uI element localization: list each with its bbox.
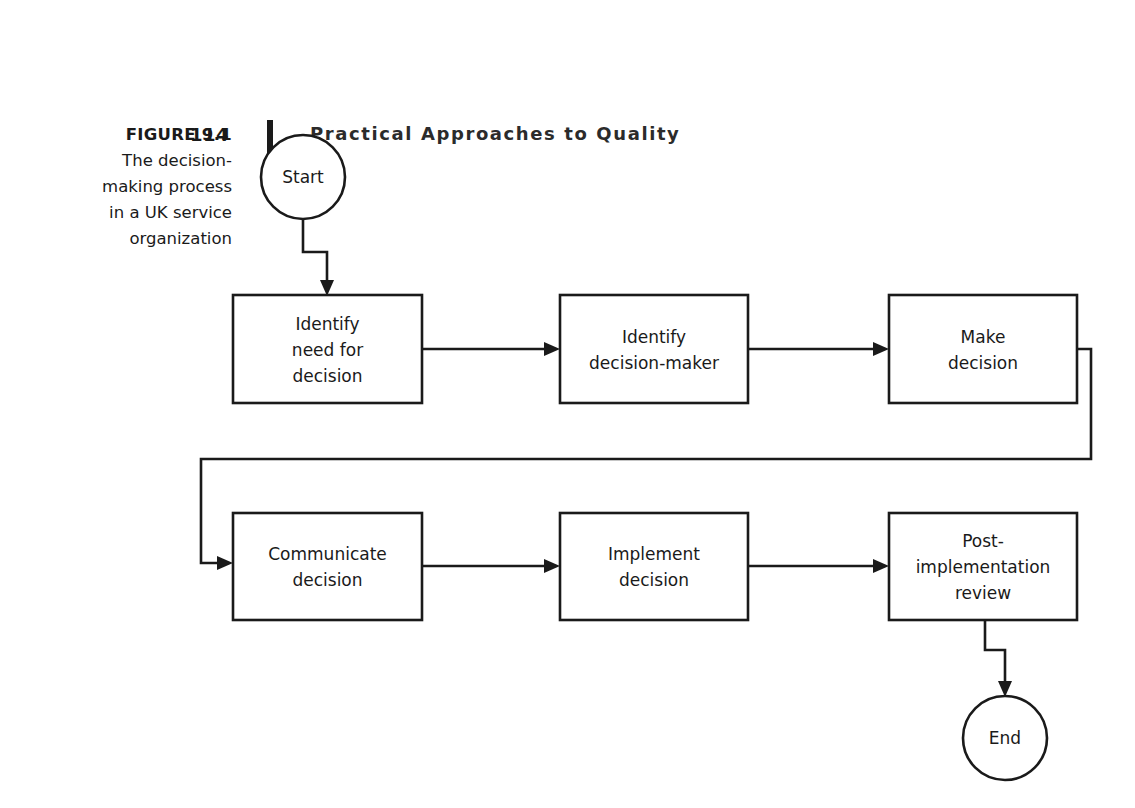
connector-identify-need-to-decision-maker [422,342,560,356]
make-decision-box [889,295,1077,403]
post-implementation-review-label-line-1: Post- [962,531,1004,551]
node-post-implementation-review[interactable]: Post- implementation review [889,513,1077,620]
node-identify-need[interactable]: Identify need for decision [233,295,422,403]
node-identify-decision-maker[interactable]: Identify decision-maker [560,295,748,403]
post-implementation-review-label-line-3: review [955,583,1011,603]
connector-start-to-identify-need [303,219,334,296]
node-start[interactable]: Start [261,135,345,219]
node-end[interactable]: End [963,696,1047,780]
identify-need-label-line-3: decision [292,366,362,386]
post-implementation-review-label-line-2: implementation [916,557,1051,577]
node-communicate-decision[interactable]: Communicate decision [233,513,422,620]
node-implement-decision[interactable]: Implement decision [560,513,748,620]
identify-decision-maker-label-line-1: Identify [622,327,686,347]
identify-decision-maker-label-line-2: decision-maker [589,353,719,373]
decision-process-flowchart: Start Identify need for decision Identif… [0,0,1135,808]
implement-decision-label-line-2: decision [619,570,689,590]
make-decision-label-line-2: decision [948,353,1018,373]
connector-communicate-decision-to-implement-decision [422,559,560,573]
communicate-decision-box [233,513,422,620]
start-label: Start [282,167,324,187]
node-make-decision[interactable]: Make decision [889,295,1077,403]
communicate-decision-label-line-1: Communicate [268,544,387,564]
end-label: End [989,728,1021,748]
identify-decision-maker-box [560,295,748,403]
connector-decision-maker-to-make-decision [748,342,889,356]
communicate-decision-label-line-2: decision [292,570,362,590]
implement-decision-label-line-1: Implement [608,544,700,564]
identify-need-label-line-1: Identify [295,314,359,334]
implement-decision-box [560,513,748,620]
connector-post-implementation-review-to-end [985,620,1012,697]
identify-need-label-line-2: need for [292,340,363,360]
make-decision-label-line-1: Make [961,327,1006,347]
connector-implement-decision-to-post-implementation-review [748,559,889,573]
